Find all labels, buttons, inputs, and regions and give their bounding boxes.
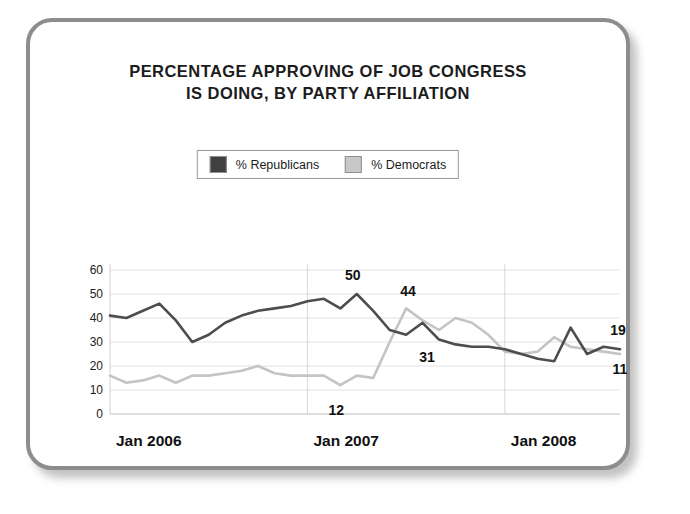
- chart-legend: % Republicans % Democrats: [197, 150, 459, 179]
- x-tick-label: Jan 2008: [511, 432, 577, 449]
- data-label: 44: [400, 283, 416, 299]
- title-line-1: PERCENTAGE APPROVING OF JOB CONGRESS: [30, 60, 626, 82]
- screenshot-root: PERCENTAGE APPROVING OF JOB CONGRESS IS …: [0, 0, 690, 514]
- y-tick-label: 20: [90, 359, 104, 373]
- x-tick-label: Jan 2007: [313, 432, 379, 449]
- title-line-2: IS DOING, BY PARTY AFFILIATION: [30, 82, 626, 104]
- y-tick-label: 0: [96, 407, 103, 421]
- y-tick-label: 40: [90, 311, 104, 325]
- chart-card: PERCENTAGE APPROVING OF JOB CONGRESS IS …: [26, 18, 630, 470]
- legend-item-democrats[interactable]: % Democrats: [345, 156, 446, 173]
- legend-label-republicans: % Republicans: [236, 158, 319, 172]
- legend-item-republicans[interactable]: % Republicans: [210, 156, 319, 173]
- data-label: 19: [610, 322, 626, 338]
- legend-label-democrats: % Democrats: [371, 158, 446, 172]
- data-label: 50: [345, 267, 361, 283]
- page-title: PERCENTAGE APPROVING OF JOB CONGRESS IS …: [30, 60, 626, 104]
- y-tick-label: 30: [90, 335, 104, 349]
- legend-swatch-republicans: [210, 156, 227, 173]
- x-tick-label: Jan 2006: [116, 432, 182, 449]
- data-label: 12: [329, 402, 345, 418]
- series-line-democrats: [110, 308, 620, 385]
- legend-swatch-democrats: [345, 156, 362, 173]
- y-tick-label: 10: [90, 383, 104, 397]
- data-label: 11: [613, 361, 628, 377]
- y-tick-label: 60: [90, 263, 104, 277]
- series-line-republicans: [110, 294, 620, 361]
- data-label: 31: [419, 349, 435, 365]
- y-tick-label: 50: [90, 287, 104, 301]
